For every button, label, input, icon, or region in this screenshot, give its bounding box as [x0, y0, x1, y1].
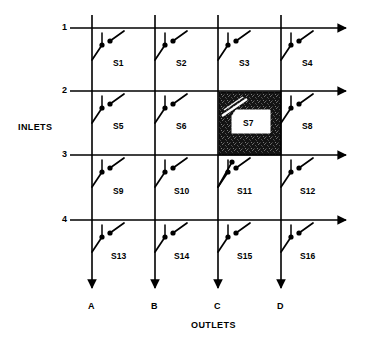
outlets-axis-title: OUTLETS: [191, 321, 236, 330]
row-label-4: 4: [62, 215, 67, 224]
column-label-b: B: [151, 302, 158, 311]
column-label-c: C: [214, 302, 221, 311]
switch-label-S10: S10: [174, 187, 189, 196]
switch-glyph-S4[interactable]: [281, 31, 313, 60]
switch-label-S15: S15: [237, 252, 252, 261]
switch-glyph-S3[interactable]: [218, 31, 250, 60]
switch-glyph-S13[interactable]: [92, 223, 124, 252]
switch-glyph-S10[interactable]: [155, 158, 187, 187]
switch-glyph-S8[interactable]: [281, 94, 313, 123]
switch-label-S3: S3: [239, 59, 250, 68]
matrix-canvas: [0, 0, 365, 339]
switch-glyph-S6[interactable]: [155, 94, 187, 123]
switch-label-S11: S11: [237, 187, 252, 196]
switch-label-S1: S1: [113, 59, 124, 68]
switch-glyph-S14[interactable]: [155, 223, 187, 252]
switch-glyph-S1[interactable]: [92, 31, 124, 60]
column-label-d: D: [277, 302, 284, 311]
inlets-axis-title: INLETS: [18, 123, 52, 132]
switch-glyph-S7[interactable]: [218, 159, 235, 187]
switch-label-S16: S16: [300, 252, 315, 261]
switch-glyph-S16[interactable]: [281, 223, 313, 252]
switch-glyph-S12[interactable]: [281, 158, 313, 187]
switch-label-S8: S8: [302, 122, 313, 131]
switch-glyph-S5[interactable]: [92, 94, 124, 123]
switch-label-S13: S13: [111, 252, 126, 261]
switch-label-S9: S9: [113, 187, 124, 196]
row-label-2: 2: [62, 86, 67, 95]
row-label-1: 1: [62, 23, 67, 32]
crossbar-matrix-diagram: 1 2 3 4 A B C D INLETS OUTLETS S1 S2 S3 …: [0, 0, 365, 339]
switch-label-S2: S2: [176, 59, 187, 68]
switch-glyph-S15[interactable]: [218, 223, 250, 252]
switch-label-S14: S14: [174, 252, 189, 261]
switch-label-S6: S6: [176, 122, 187, 131]
switch-glyph-S2[interactable]: [155, 31, 187, 60]
switch-label-S4: S4: [302, 59, 313, 68]
switch-label-S12: S12: [300, 187, 315, 196]
column-label-a: A: [88, 302, 95, 311]
switch-glyph-S9[interactable]: [92, 158, 124, 187]
switch-label-S5: S5: [113, 122, 124, 131]
switch-label-S7: S7: [243, 119, 254, 128]
row-label-3: 3: [62, 150, 67, 159]
